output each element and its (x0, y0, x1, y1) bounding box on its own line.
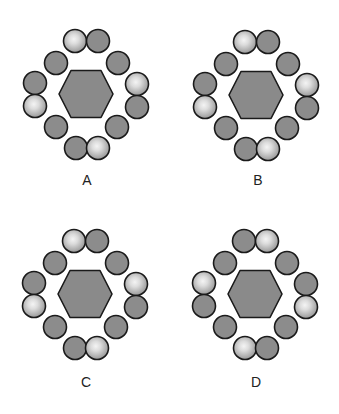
light-circle-top-left (64, 30, 87, 53)
light-circle-top-left (234, 31, 257, 54)
dark-circle-right-lower (126, 96, 149, 119)
dark-circle-upper-left-diag (215, 53, 238, 76)
dark-circle-upper-right-diag (277, 53, 300, 76)
option-d-figure (193, 230, 318, 360)
dark-circle-lower-left-diag (44, 316, 67, 339)
dark-circle-right-lower (125, 296, 148, 319)
dark-circle-bottom-left (64, 337, 87, 360)
light-circle-left-lower (23, 295, 46, 318)
dark-circle-bottom-left (65, 137, 88, 160)
hexagon-shape (59, 71, 113, 118)
dark-circle-left-lower (193, 295, 216, 318)
light-circle-top-left (63, 230, 86, 253)
hexagon-shape (229, 72, 283, 119)
light-circle-right-upper (126, 73, 149, 96)
dark-circle-lower-left-diag (214, 316, 237, 339)
light-circle-right-upper (125, 273, 148, 296)
light-circle-bottom-right (87, 137, 110, 160)
option-b-figure (194, 31, 319, 161)
dark-circle-top-right (257, 31, 280, 54)
light-circle-top-right (256, 230, 279, 253)
dark-circle-lower-right-diag (275, 316, 298, 339)
dark-circle-bottom-left (235, 138, 258, 161)
dark-circle-lower-right-diag (106, 116, 129, 139)
dark-circle-upper-left-diag (44, 252, 67, 275)
dark-circle-left-upper (194, 73, 217, 96)
dark-circle-lower-right-diag (105, 316, 128, 339)
dark-circle-top-left (233, 230, 256, 253)
dark-circle-lower-right-diag (276, 117, 299, 140)
option-label-b: B (243, 172, 273, 188)
option-c-figure (23, 230, 148, 360)
hexagon-shape (58, 271, 112, 318)
hexagon-shape (228, 271, 282, 318)
dark-circle-right-upper (295, 273, 318, 296)
dark-circle-lower-left-diag (45, 116, 68, 139)
diagram-canvas (0, 0, 339, 414)
light-circle-bottom-left (234, 337, 257, 360)
dark-circle-right-lower (296, 97, 319, 120)
option-label-d: D (241, 374, 271, 390)
dark-circle-left-upper (23, 272, 46, 295)
dark-circle-upper-right-diag (106, 252, 129, 275)
dark-circle-upper-right-diag (276, 252, 299, 275)
dark-circle-upper-right-diag (107, 52, 130, 75)
light-circle-bottom-right (257, 138, 280, 161)
light-circle-bottom-right (86, 337, 109, 360)
dark-circle-upper-left-diag (45, 52, 68, 75)
option-a-figure (24, 30, 149, 160)
light-circle-right-upper (296, 74, 319, 97)
dark-circle-top-right (87, 30, 110, 53)
light-circle-left-lower (194, 96, 217, 119)
light-circle-left-upper (193, 272, 216, 295)
dark-circle-lower-left-diag (215, 117, 238, 140)
dark-circle-upper-left-diag (214, 252, 237, 275)
dark-circle-top-right (86, 230, 109, 253)
option-label-a: A (72, 172, 102, 188)
dark-circle-bottom-right (256, 337, 279, 360)
dark-circle-left-upper (24, 72, 47, 95)
light-circle-left-lower (24, 95, 47, 118)
light-circle-right-lower (295, 296, 318, 319)
option-label-c: C (71, 374, 101, 390)
